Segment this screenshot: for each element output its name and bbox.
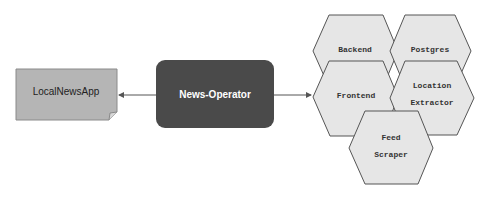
feed-scraper-label-line2: Scraper — [374, 150, 408, 159]
local-news-app-node[interactable]: LocalNewsApp — [16, 69, 117, 120]
local-news-app-label: LocalNewsApp — [33, 86, 100, 97]
location-extractor-label-line1: Location — [413, 81, 452, 90]
postgres-label: Postgres — [411, 45, 450, 54]
news-operator-label: News-Operator — [179, 89, 251, 100]
feed-scraper-label-line1: Feed — [381, 133, 400, 142]
architecture-diagram: LocalNewsApp News-Operator Backend Postg… — [0, 0, 487, 197]
backend-label: Backend — [338, 45, 372, 54]
frontend-label: Frontend — [337, 91, 376, 100]
news-operator-node[interactable]: News-Operator — [156, 60, 274, 128]
feed-scraper-node[interactable]: Feed Scraper — [349, 111, 433, 184]
location-extractor-label-line2: Extractor — [410, 98, 453, 107]
